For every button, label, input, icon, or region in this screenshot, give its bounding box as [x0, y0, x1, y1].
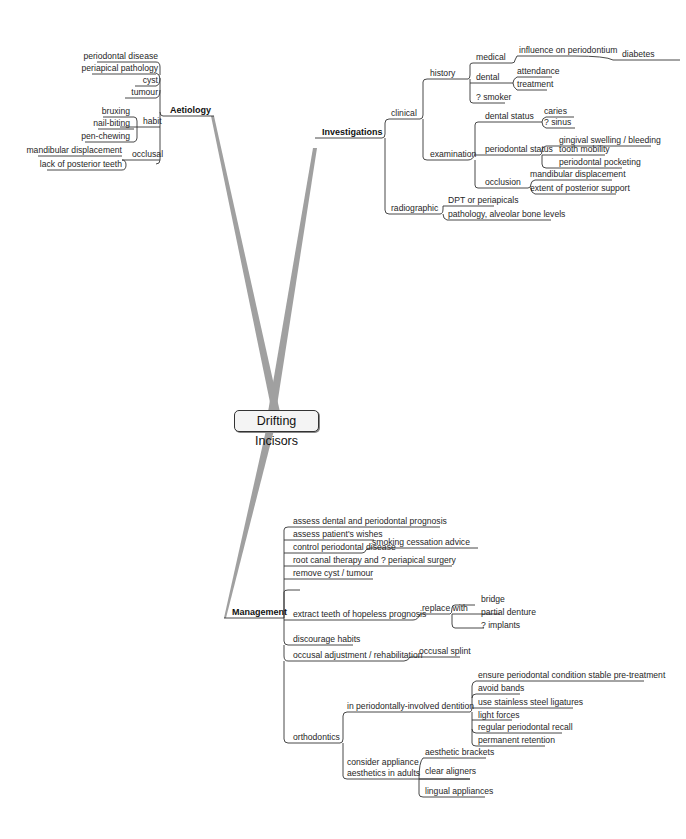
habit-label[interactable]: habit	[143, 116, 162, 126]
ortho-perio-item[interactable]: regular periodontal recall	[478, 722, 573, 732]
occlusal-item[interactable]: lack of posterior teeth	[40, 159, 122, 169]
habit-item[interactable]: bruxing	[102, 106, 130, 116]
ortho-perio-item[interactable]: light forces	[478, 710, 520, 720]
medical-label[interactable]: medical	[476, 52, 506, 62]
replace-item[interactable]: ? implants	[481, 620, 520, 630]
aetiology-item[interactable]: cyst	[143, 75, 158, 85]
management-item[interactable]: remove cyst / tumour	[293, 568, 373, 578]
ortho-perio-label[interactable]: in periodontally-involved dentition	[347, 701, 474, 711]
ortho-perio-item[interactable]: ensure periodontal condition stable pre-…	[478, 670, 665, 680]
management-item[interactable]: occusal adjustment / rehabilitation	[293, 650, 422, 660]
radiographic-item[interactable]: pathology, alveolar bone levels	[448, 209, 565, 219]
dental-status-item[interactable]: caries	[544, 106, 567, 116]
aetiology-item[interactable]: periapical pathology	[82, 63, 158, 73]
ortho-adults-label-1[interactable]: consider appliance	[347, 757, 419, 767]
investigations-label[interactable]: Investigations	[322, 127, 383, 137]
ortho-adults-label-2[interactable]: aesthetics in adults	[347, 768, 420, 778]
dental-item[interactable]: attendance	[517, 66, 560, 76]
dental-status-item[interactable]: ? sinus	[544, 117, 571, 127]
aetiology-item[interactable]: periodontal disease	[83, 51, 158, 61]
occlusion-item[interactable]: extent of posterior support	[530, 183, 630, 193]
habit-item[interactable]: nail-biting	[93, 118, 130, 128]
ortho-adults-item[interactable]: lingual appliances	[425, 786, 493, 796]
radiographic-label[interactable]: radiographic	[391, 203, 438, 213]
ortho-perio-item[interactable]: permanent retention	[478, 735, 555, 745]
management-item[interactable]: orthodontics	[293, 732, 340, 742]
occlusal-item[interactable]: mandibular displacement	[26, 145, 122, 155]
management-item[interactable]: root canal therapy and ? periapical surg…	[293, 555, 456, 565]
ortho-adults-item[interactable]: clear aligners	[425, 766, 476, 776]
dental-item[interactable]: treatment	[517, 79, 553, 89]
dental-status-label[interactable]: dental status	[485, 111, 534, 121]
occlusal-label[interactable]: occlusal	[132, 149, 163, 159]
management-item[interactable]: assess patient's wishes	[293, 529, 383, 539]
replace-item[interactable]: bridge	[481, 594, 505, 604]
dental-label[interactable]: dental	[476, 72, 499, 82]
occlusion-item[interactable]: mandibular displacement	[530, 169, 626, 179]
replace-item[interactable]: partial denture	[481, 607, 536, 617]
management-item[interactable]: assess dental and periodontal prognosis	[293, 516, 447, 526]
aetiology-label[interactable]: Aetiology	[170, 105, 211, 115]
periodontal-status-label[interactable]: periodontal status	[485, 144, 553, 154]
occlusion-label[interactable]: occlusion	[485, 177, 521, 187]
history-label[interactable]: history	[430, 68, 455, 78]
central-topic[interactable]: Drifting Incisors	[234, 410, 319, 432]
perio-status-item[interactable]: periodontal pocketing	[559, 157, 641, 167]
replace-with-label[interactable]: replace with	[422, 603, 468, 613]
clinical-label[interactable]: clinical	[391, 108, 417, 118]
diabetes[interactable]: diabetes	[622, 49, 655, 59]
management-item[interactable]: extract teeth of hopeless prognosis	[293, 609, 426, 619]
ortho-perio-item[interactable]: avoid bands	[478, 683, 524, 693]
management-label[interactable]: Management	[232, 607, 287, 617]
perio-status-item[interactable]: tooth mobility	[559, 144, 610, 154]
ortho-adults-item[interactable]: aesthetic brackets	[425, 747, 494, 757]
smoking-cessation[interactable]: smoking cessation advice	[372, 537, 470, 547]
examination-label[interactable]: examination	[430, 149, 476, 159]
aetiology-item[interactable]: tumour	[131, 87, 158, 97]
influence-periodontium[interactable]: influence on periodontium	[519, 45, 617, 55]
ortho-perio-item[interactable]: use stainless steel ligatures	[478, 697, 583, 707]
management-item[interactable]: discourage habits	[293, 634, 360, 644]
smoker[interactable]: ? smoker	[476, 92, 511, 102]
radiographic-item[interactable]: DPT or periapicals	[448, 195, 519, 205]
habit-item[interactable]: pen-chewing	[81, 131, 130, 141]
occlusal-splint[interactable]: occusal splint	[419, 646, 471, 656]
